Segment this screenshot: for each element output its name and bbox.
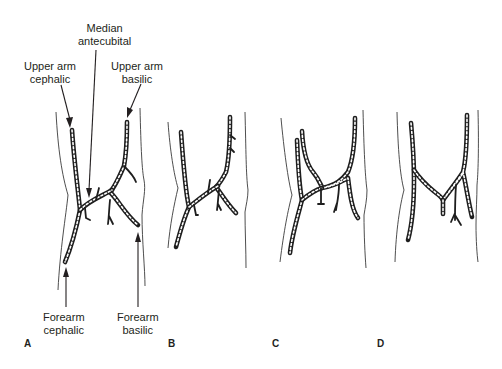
panel-label-a: A bbox=[24, 338, 31, 349]
panel-a-arm-outline-right bbox=[140, 108, 145, 286]
panel-d-basilic-vein bbox=[443, 115, 472, 217]
label-median-antecubital: Median antecubital bbox=[78, 22, 131, 48]
pointer-median-antecubital bbox=[89, 50, 96, 190]
panel-label-d: D bbox=[377, 338, 384, 349]
panel-label-b: B bbox=[168, 338, 175, 349]
label-upper-arm-basilic: Upper arm basilic bbox=[111, 60, 163, 86]
pointer-upper-arm-cephalic bbox=[61, 85, 70, 120]
panel-a-drawing bbox=[56, 108, 145, 290]
pointer-upper-arm-basilic bbox=[130, 84, 141, 110]
panel-a-tributary bbox=[124, 166, 136, 182]
panel-c-drawing bbox=[280, 110, 367, 268]
panel-c-median-antecubital-vein bbox=[302, 188, 322, 200]
panel-label-c: C bbox=[272, 338, 279, 349]
panel-b-drawing bbox=[168, 112, 248, 268]
panel-d-drawing bbox=[395, 110, 478, 262]
label-upper-arm-cephalic: Upper arm cephalic bbox=[24, 60, 76, 86]
label-forearm-cephalic: Forearm cephalic bbox=[43, 311, 85, 337]
panel-c-accessory-cephalic-vein bbox=[302, 131, 322, 187]
label-pointers bbox=[61, 50, 141, 307]
label-forearm-basilic: Forearm basilic bbox=[117, 311, 159, 337]
